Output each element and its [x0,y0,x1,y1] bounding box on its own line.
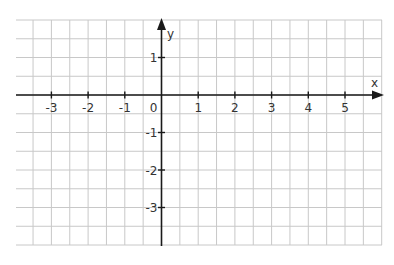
x-tick-label: -1 [119,101,131,115]
x-tick-label: 5 [341,101,349,115]
y-tick-label: -2 [146,164,158,178]
y-tick-label: -1 [146,126,158,140]
grid-lines [16,20,382,245]
y-tick-label: 1 [150,51,158,65]
x-tick-label: 0 [150,101,158,115]
x-tick-label: 4 [304,101,312,115]
x-tick-label: -2 [82,101,94,115]
coordinate-plane: -3-2-10123451-1-2-3 x y [0,0,394,265]
x-tick-label: 1 [194,101,202,115]
x-tick-label: 2 [231,101,239,115]
x-tick-label: -3 [45,101,57,115]
y-tick-label: -3 [146,201,158,215]
x-axis-label: x [371,76,378,90]
x-tick-label: 3 [268,101,276,115]
y-axis-label: y [167,27,174,41]
